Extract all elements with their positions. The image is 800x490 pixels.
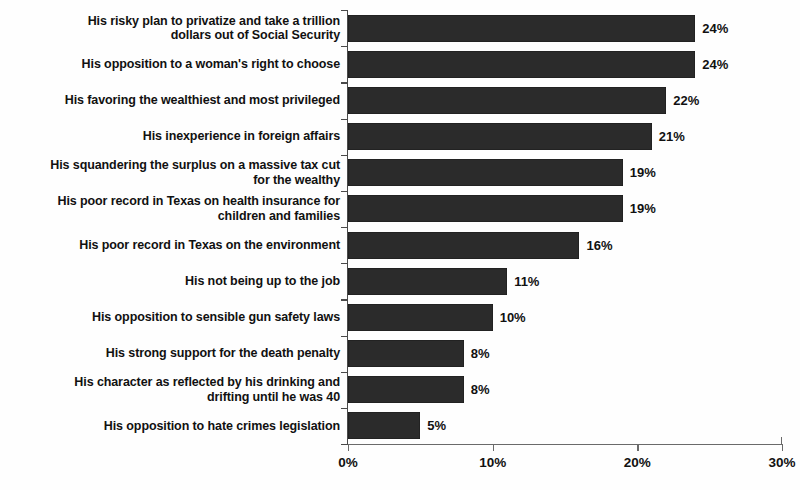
category-label: His inexperience in foreign affairs xyxy=(8,129,340,144)
x-axis-tick xyxy=(348,444,349,451)
category-label: His favoring the wealthiest and most pri… xyxy=(8,93,340,108)
bar-group: 16% xyxy=(348,227,612,263)
bar-group: 11% xyxy=(348,263,539,299)
y-axis-tick xyxy=(341,227,348,228)
y-axis-tick xyxy=(341,408,348,409)
horizontal-bar-chart: His risky plan to privatize and take a t… xyxy=(0,0,800,490)
bar-group: 22% xyxy=(348,82,699,118)
chart-row: His opposition to a woman's right to cho… xyxy=(0,46,800,82)
chart-row: His not being up to the job11% xyxy=(0,263,800,299)
chart-row: His favoring the wealthiest and most pri… xyxy=(0,82,800,118)
bar xyxy=(348,15,695,42)
y-axis-tick xyxy=(341,263,348,264)
chart-row: His opposition to sensible gun safety la… xyxy=(0,299,800,335)
bar xyxy=(348,376,464,403)
bar-group: 21% xyxy=(348,119,685,155)
bar-group: 10% xyxy=(348,299,526,335)
bar xyxy=(348,195,623,222)
bar xyxy=(348,232,579,259)
chart-row: His poor record in Texas on the environm… xyxy=(0,227,800,263)
bar-group: 24% xyxy=(348,46,728,82)
bar xyxy=(348,87,666,114)
bar-group: 19% xyxy=(348,191,656,227)
x-axis-tick xyxy=(782,444,783,451)
bar-group: 5% xyxy=(348,408,446,444)
bar xyxy=(348,412,420,439)
bar-value-label: 19% xyxy=(630,201,656,216)
category-label: His character as reflected by his drinki… xyxy=(8,375,340,404)
chart-rows: His risky plan to privatize and take a t… xyxy=(0,0,800,434)
bar xyxy=(348,159,623,186)
y-axis-tick xyxy=(341,82,348,83)
bar-value-label: 24% xyxy=(702,21,728,36)
y-axis-tick xyxy=(341,155,348,156)
bar-value-label: 8% xyxy=(471,346,490,361)
x-axis-line xyxy=(347,444,782,445)
bar xyxy=(348,51,695,78)
y-axis-tick xyxy=(341,10,348,11)
x-axis-tick xyxy=(637,444,638,451)
x-axis-tick-label: 30% xyxy=(768,455,795,470)
y-axis-tick xyxy=(341,46,348,47)
chart-row: His poor record in Texas on health insur… xyxy=(0,191,800,227)
bar xyxy=(348,304,493,331)
category-label: His not being up to the job xyxy=(8,274,340,289)
category-label: His opposition to a woman's right to cho… xyxy=(8,57,340,72)
y-axis-tick xyxy=(341,119,348,120)
bar xyxy=(348,123,652,150)
category-label: His risky plan to privatize and take a t… xyxy=(8,14,340,43)
x-axis-tick-label: 0% xyxy=(338,455,358,470)
y-axis-tick xyxy=(341,336,348,337)
chart-row: His opposition to hate crimes legislatio… xyxy=(0,408,800,444)
bar-value-label: 10% xyxy=(500,310,526,325)
chart-row: His strong support for the death penalty… xyxy=(0,336,800,372)
bar-value-label: 11% xyxy=(514,274,539,289)
bar-value-label: 19% xyxy=(630,165,656,180)
y-axis-tick xyxy=(341,299,348,300)
x-axis-tick-label: 10% xyxy=(479,455,506,470)
category-label: His squandering the surplus on a massive… xyxy=(8,158,340,187)
chart-row: His inexperience in foreign affairs21% xyxy=(0,119,800,155)
y-axis-tick xyxy=(341,444,348,445)
bar xyxy=(348,340,464,367)
bar-value-label: 22% xyxy=(673,93,699,108)
chart-row: His squandering the surplus on a massive… xyxy=(0,155,800,191)
category-label: His strong support for the death penalty xyxy=(8,346,340,361)
category-label: His poor record in Texas on health insur… xyxy=(8,194,340,223)
bar-value-label: 5% xyxy=(427,418,446,433)
category-label: His poor record in Texas on the environm… xyxy=(8,238,340,253)
bar-value-label: 24% xyxy=(702,57,728,72)
category-label: His opposition to sensible gun safety la… xyxy=(8,310,340,325)
chart-row: His risky plan to privatize and take a t… xyxy=(0,10,800,46)
bar xyxy=(348,268,507,295)
bar-group: 24% xyxy=(348,10,728,46)
bar-value-label: 8% xyxy=(471,382,490,397)
category-label: His opposition to hate crimes legislatio… xyxy=(8,419,340,434)
bar-value-label: 16% xyxy=(586,238,612,253)
x-axis-tick xyxy=(493,444,494,451)
bar-value-label: 21% xyxy=(659,129,685,144)
bar-group: 8% xyxy=(348,372,490,408)
bar-group: 8% xyxy=(348,336,490,372)
bar-group: 19% xyxy=(348,155,656,191)
y-axis-tick xyxy=(341,372,348,373)
y-axis-tick xyxy=(341,191,348,192)
chart-row: His character as reflected by his drinki… xyxy=(0,372,800,408)
x-axis-tick-label: 20% xyxy=(624,455,651,470)
